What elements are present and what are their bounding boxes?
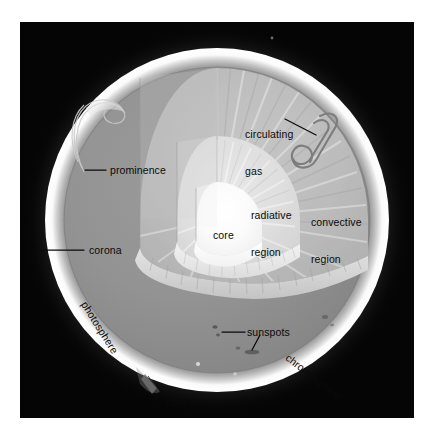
- core-cut-face: [196, 182, 217, 227]
- figure-page: circulating gas prominence corona radiat…: [0, 0, 440, 444]
- sun-cutaway-illustration: [20, 22, 414, 418]
- sun-diagram-plate: circulating gas prominence corona radiat…: [20, 22, 414, 418]
